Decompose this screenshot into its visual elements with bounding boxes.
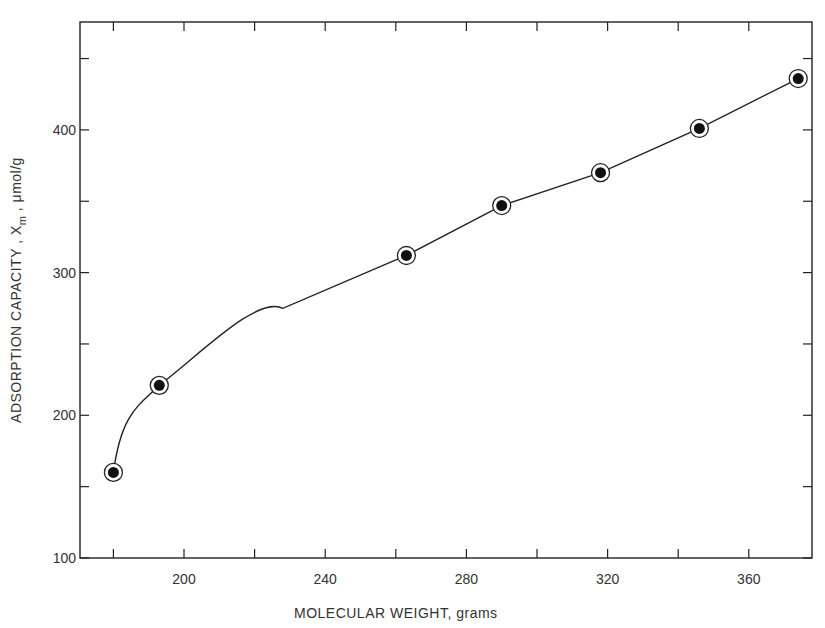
y-axis-title: ADSORPTION CAPACITY , Xm , μmol/g xyxy=(8,157,28,423)
x-tick-label: 240 xyxy=(314,571,338,587)
x-axis-title: MOLECULAR WEIGHT, grams xyxy=(294,605,498,621)
x-tick-label: 280 xyxy=(455,571,479,587)
data-point xyxy=(154,380,165,391)
y-tick-label: 300 xyxy=(53,265,77,281)
x-tick-label: 200 xyxy=(172,571,196,587)
y-tick-label: 200 xyxy=(53,407,77,423)
x-tick-label: 360 xyxy=(737,571,761,587)
data-point xyxy=(793,73,804,84)
plot-frame xyxy=(80,22,812,558)
data-point xyxy=(108,467,119,478)
data-curve xyxy=(113,79,798,473)
data-point xyxy=(694,123,705,134)
y-tick-label: 400 xyxy=(53,122,77,138)
data-point xyxy=(595,167,606,178)
data-point xyxy=(401,250,412,261)
y-tick-label: 100 xyxy=(53,550,77,566)
chart: 200240280320360100200300400MOLECULAR WEI… xyxy=(0,0,825,628)
data-point xyxy=(496,200,507,211)
x-tick-label: 320 xyxy=(596,571,620,587)
